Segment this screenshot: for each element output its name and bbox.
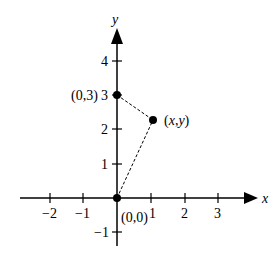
- x-tick-label: 1: [149, 206, 156, 221]
- x-axis-arrow-icon: [244, 192, 258, 204]
- x-axis-label: x: [261, 191, 269, 206]
- x-tick-label: −2: [42, 206, 57, 221]
- x-tick-label: 3: [214, 206, 221, 221]
- point-label-0-0: (0,0): [121, 210, 148, 226]
- segment-03-to-xy: [117, 95, 153, 120]
- y-tick-label: 1: [101, 157, 108, 172]
- point-0-0: [113, 194, 121, 202]
- point-x-y: [149, 116, 157, 124]
- y-axis-arrow-icon: [111, 28, 123, 44]
- y-tick-label: 4: [101, 54, 108, 69]
- y-tick-label: 2: [101, 122, 108, 137]
- coordinate-plane: x y −2 −1 1 2 3 4 3 2 1 −1 (0,3) (x,y) (…: [0, 0, 279, 265]
- x-tick-label: −1: [75, 206, 90, 221]
- point-0-3: [113, 91, 121, 99]
- y-tick-label: 3: [101, 88, 108, 103]
- y-axis-label: y: [110, 12, 119, 27]
- segment-00-to-xy: [117, 120, 153, 198]
- point-label-0-3: (0,3): [71, 88, 98, 104]
- x-tick-label: 2: [181, 206, 188, 221]
- y-tick-label: −1: [94, 225, 109, 240]
- point-label-x-y: (x,y): [164, 113, 190, 129]
